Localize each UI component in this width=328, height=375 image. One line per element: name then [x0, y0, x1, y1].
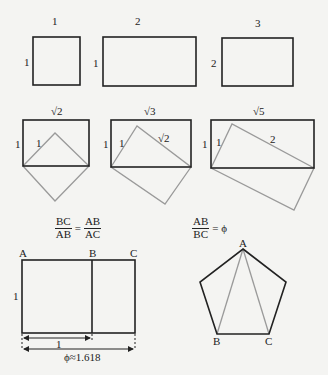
root5-inner-label-2: 2 — [270, 134, 276, 145]
root2-rectangle — [23, 120, 89, 201]
square-1x1 — [33, 37, 80, 85]
root5-rectangle — [211, 120, 314, 210]
root5-side-label: 1 — [202, 139, 208, 150]
root5-inner-label-1: 1 — [216, 137, 222, 148]
pentagon — [200, 249, 286, 334]
pentagon-point-c: C — [265, 336, 272, 347]
rect-2x1 — [103, 37, 196, 86]
pentagon-eq-denominator: BC — [193, 229, 208, 241]
eq-lhs-numerator: BC — [55, 216, 72, 229]
pentagon-eq-numerator: AB — [192, 216, 209, 229]
rect3-top-label: 3 — [255, 18, 261, 29]
pentagon-eq-rhs: = ϕ — [212, 222, 227, 234]
root2-top-label: √2 — [51, 106, 63, 117]
square-side-label: 1 — [24, 57, 30, 68]
pentagon-equation: ABBC = ϕ — [192, 216, 227, 240]
root3-side-label: 1 — [103, 139, 109, 150]
rect3-side-label: 2 — [211, 58, 217, 69]
root3-top-label: √3 — [144, 106, 156, 117]
golden-dimension-lines — [22, 334, 135, 350]
golden-inner-width-label: 1 — [56, 339, 62, 350]
pentagon-point-a: A — [239, 238, 247, 249]
rect2-side-label: 1 — [93, 58, 99, 69]
root3-rectangle — [111, 120, 191, 204]
golden-point-a: A — [19, 248, 27, 259]
root2-inner-label: 1 — [36, 138, 42, 149]
golden-ratio-equation: BCAB = ABAC — [55, 216, 101, 240]
rect-3x2 — [222, 38, 293, 86]
root5-top-label: √5 — [253, 106, 265, 117]
eq-rhs-numerator: AB — [84, 216, 101, 229]
eq-equals: = — [75, 222, 81, 234]
geometry-diagram — [0, 0, 328, 375]
golden-total-width-label: ϕ≈1.618 — [64, 352, 101, 363]
root3-inner-label-sqrt2: √2 — [158, 133, 170, 144]
golden-point-b: B — [89, 248, 96, 259]
eq-rhs-denominator: AC — [85, 229, 100, 241]
rect2-top-label: 2 — [135, 16, 141, 27]
golden-point-c: C — [130, 248, 137, 259]
root3-inner-label-1: 1 — [119, 138, 125, 149]
pentagon-point-b: B — [213, 336, 220, 347]
golden-rectangle — [22, 260, 135, 333]
square-top-label: 1 — [52, 16, 58, 27]
eq-lhs-denominator: AB — [56, 229, 71, 241]
root2-side-label: 1 — [15, 139, 21, 150]
golden-side-label: 1 — [13, 291, 19, 302]
